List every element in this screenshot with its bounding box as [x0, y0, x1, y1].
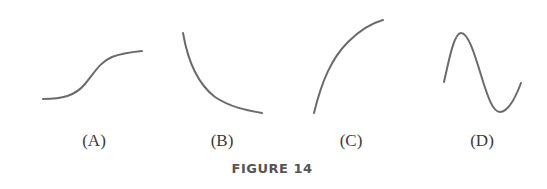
curve-c-concave-down [314, 20, 383, 113]
curve-a-sigmoid [43, 51, 142, 99]
panel-label-a: (A) [82, 131, 106, 151]
panel-label-c: (C) [340, 131, 363, 151]
curve-b-decay [183, 33, 262, 113]
curve-d-sine [444, 33, 521, 112]
panel-label-b: (B) [211, 131, 234, 151]
figure-caption: FIGURE 14 [232, 161, 313, 176]
panel-label-d: (D) [470, 131, 494, 151]
